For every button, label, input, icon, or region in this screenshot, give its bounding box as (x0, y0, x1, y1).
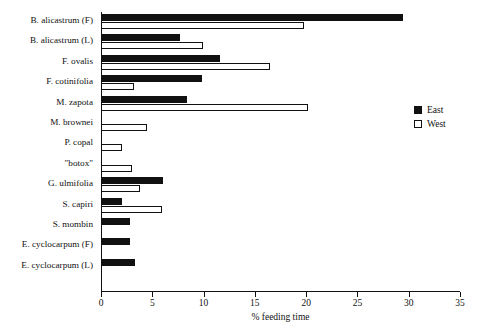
y-axis-category-labels: B. alicastrum (F)B. alicastrum (L)F. ova… (0, 12, 97, 282)
chart-legend: East West (414, 103, 478, 131)
bar-west (101, 144, 122, 151)
x-axis-tick (101, 292, 102, 297)
bar-group (101, 157, 460, 173)
bar-west (101, 63, 270, 70)
x-axis-title: % feeding time (101, 312, 460, 322)
bar-group (101, 177, 460, 193)
x-axis-line (101, 291, 460, 292)
bar-group (101, 218, 460, 234)
y-axis-category-label: G. ulmifolia (0, 178, 93, 188)
bar-group (101, 96, 460, 112)
bar-east (101, 34, 180, 41)
bar-group (101, 198, 460, 214)
y-axis-line (101, 12, 102, 292)
x-axis-tick (204, 292, 205, 297)
bar-west (101, 42, 203, 49)
bar-east (101, 55, 220, 62)
bar-east (101, 198, 122, 205)
x-axis-tick (255, 292, 256, 297)
bar-east (101, 75, 202, 82)
x-axis-tick-label: 5 (137, 298, 167, 309)
y-axis-category-label: S. capiri (0, 199, 93, 209)
bar-group (101, 34, 460, 50)
bar-east (101, 259, 135, 266)
y-axis-category-label: B. alicastrum (F) (0, 15, 93, 25)
bar-east (101, 177, 163, 184)
bar-group (101, 136, 460, 152)
x-axis-tick-label: 20 (291, 298, 321, 309)
bar-west (101, 22, 304, 29)
bar-east (101, 14, 403, 21)
bar-east (101, 218, 130, 225)
x-axis-tick-label: 0 (86, 298, 116, 309)
bar-west (101, 206, 162, 213)
bar-group (101, 238, 460, 254)
bar-west (101, 104, 308, 111)
bar-group (101, 259, 460, 275)
x-axis-tick-label: 15 (240, 298, 270, 309)
x-axis-tick-label: 35 (445, 298, 475, 309)
y-axis-category-label: S. mombin (0, 219, 93, 229)
y-axis-category-label: F. ovalis (0, 56, 93, 66)
x-axis-tick (409, 292, 410, 297)
bar-group (101, 55, 460, 71)
x-axis-tick (306, 292, 307, 297)
x-axis-tick-label: 30 (394, 298, 424, 309)
y-axis-category-label: P. copal (0, 137, 93, 147)
bar-west (101, 124, 147, 131)
y-axis-category-label: M. brownei (0, 117, 93, 127)
bar-west (101, 165, 132, 172)
y-axis-category-label: B. alicastrum (L) (0, 35, 93, 45)
legend-label-east: East (427, 105, 443, 115)
x-axis-tick (460, 292, 461, 297)
plot-area (101, 12, 460, 282)
bar-group (101, 116, 460, 132)
bar-group (101, 75, 460, 91)
legend-swatch-east-icon (414, 106, 422, 114)
x-axis-tick-label: 10 (189, 298, 219, 309)
bar-west (101, 83, 134, 90)
legend-entry-east: East (414, 103, 478, 117)
feeding-time-bar-chart: B. alicastrum (F)B. alicastrum (L)F. ova… (0, 0, 481, 335)
y-axis-category-label: E. cyclocarpum (L) (0, 260, 93, 270)
legend-label-west: West (427, 119, 446, 129)
y-axis-category-label: E. cyclocarpum (F) (0, 239, 93, 249)
x-axis-tick (357, 292, 358, 297)
y-axis-category-label: "botox" (0, 158, 93, 168)
bar-group (101, 14, 460, 30)
y-axis-category-label: F. cotinifolia (0, 76, 93, 86)
bar-west (101, 185, 140, 192)
y-axis-category-label: M. zapota (0, 97, 93, 107)
legend-entry-west: West (414, 117, 478, 131)
x-axis-tick (152, 292, 153, 297)
bar-east (101, 238, 130, 245)
bar-east (101, 96, 187, 103)
x-axis-tick-label: 25 (342, 298, 372, 309)
legend-swatch-west-icon (414, 120, 422, 128)
